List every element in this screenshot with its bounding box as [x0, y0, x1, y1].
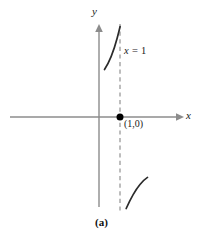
- point-label: (1,0): [124, 119, 143, 129]
- coordinate-plot: [0, 0, 203, 242]
- curve-upper-branch: [105, 27, 121, 70]
- asymptote-label-value: = 1: [129, 45, 147, 56]
- y-axis-label: y: [92, 6, 97, 17]
- figure-container: y x x = 1 (1,0) (a): [0, 0, 203, 242]
- figure-caption: (a): [0, 216, 203, 228]
- x-axis-label: x: [186, 110, 191, 121]
- x-axis-arrowhead: [176, 113, 184, 121]
- x-axis: [10, 113, 184, 121]
- point-marker-1-0: [117, 114, 124, 121]
- asymptote-label: x = 1: [124, 46, 147, 57]
- y-axis-arrowhead: [95, 24, 103, 32]
- curve-lower-branch: [126, 177, 147, 208]
- y-axis: [95, 24, 103, 207]
